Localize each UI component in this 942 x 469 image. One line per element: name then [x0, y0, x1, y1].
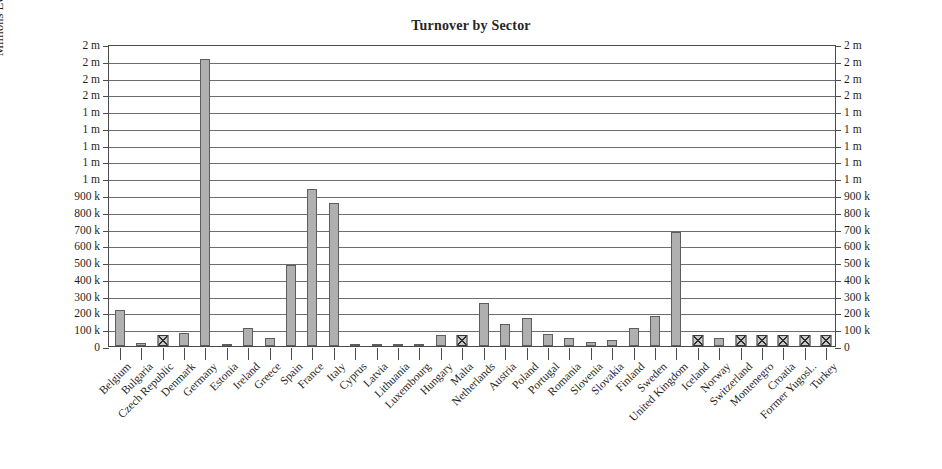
bar-slot[interactable] — [564, 46, 574, 346]
y-axis-title: Millions EUR Manufacturing — [0, 0, 7, 56]
y-tick-label: 1 m — [844, 107, 862, 118]
y-tick-label: 100 k — [844, 325, 870, 336]
x-tick — [398, 348, 399, 360]
x-tick — [548, 348, 549, 360]
x-tick — [741, 348, 742, 360]
bar-slot[interactable] — [372, 46, 382, 346]
bar[interactable] — [329, 203, 339, 346]
bar-slot[interactable] — [243, 46, 253, 346]
bar-slot[interactable] — [821, 46, 831, 346]
bar[interactable] — [564, 338, 574, 346]
y-tick-label: 0 — [844, 342, 850, 353]
y-tick-label: 900 k — [74, 191, 100, 202]
bar-slot[interactable] — [350, 46, 360, 346]
bar-slot[interactable] — [265, 46, 275, 346]
x-tick — [569, 348, 570, 360]
y-tick-label: 1 m — [82, 107, 100, 118]
x-tick — [719, 348, 720, 360]
bar-slot[interactable] — [414, 46, 424, 346]
y-tick-label: 2 m — [844, 90, 862, 101]
y-tick-label: 500 k — [74, 258, 100, 269]
bar-slot[interactable] — [736, 46, 746, 346]
x-tick — [441, 348, 442, 360]
bar-slot[interactable] — [479, 46, 489, 346]
y-tick-label: 1 m — [844, 157, 862, 168]
bar[interactable] — [671, 232, 681, 346]
bar-slot[interactable] — [115, 46, 125, 346]
bar-slot[interactable] — [222, 46, 232, 346]
y-tick-label: 2 m — [844, 57, 862, 68]
bar-slot[interactable] — [778, 46, 788, 346]
no-data-marker-icon — [799, 335, 810, 346]
bar[interactable] — [607, 340, 617, 346]
bar[interactable] — [350, 344, 360, 346]
y-tick-label: 1 m — [844, 124, 862, 135]
bar[interactable] — [650, 316, 660, 346]
x-tick — [698, 348, 699, 360]
x-tick — [527, 348, 528, 360]
y-tick-label: 1 m — [844, 141, 862, 152]
bar-slot[interactable] — [607, 46, 617, 346]
bar-slot[interactable] — [522, 46, 532, 346]
x-tick — [120, 348, 121, 360]
y-tick-label: 300 k — [844, 292, 870, 303]
bar[interactable] — [479, 303, 489, 346]
bar-slot[interactable] — [693, 46, 703, 346]
bar-slot[interactable] — [500, 46, 510, 346]
bar[interactable] — [115, 310, 125, 346]
y-tick-label: 400 k — [844, 275, 870, 286]
bar[interactable] — [372, 344, 382, 346]
y-tick-label: 200 k — [74, 308, 100, 319]
bar[interactable] — [543, 334, 553, 346]
bar[interactable] — [243, 328, 253, 346]
bar-slot[interactable] — [586, 46, 596, 346]
bar-slot[interactable] — [629, 46, 639, 346]
bar-slot[interactable] — [393, 46, 403, 346]
y-tick-label: 600 k — [844, 241, 870, 252]
bar[interactable] — [265, 338, 275, 346]
bar[interactable] — [522, 318, 532, 346]
bar[interactable] — [629, 328, 639, 346]
bar-slot[interactable] — [714, 46, 724, 346]
bar[interactable] — [500, 324, 510, 346]
bar[interactable] — [586, 342, 596, 346]
bar[interactable] — [179, 333, 189, 346]
bar-slot[interactable] — [436, 46, 446, 346]
bar[interactable] — [436, 335, 446, 346]
x-tick — [505, 348, 506, 360]
bar-slot[interactable] — [650, 46, 660, 346]
x-tick — [184, 348, 185, 360]
bar[interactable] — [307, 189, 317, 346]
no-data-marker-icon — [157, 335, 168, 346]
bar[interactable] — [714, 338, 724, 346]
bar-slot[interactable] — [200, 46, 210, 346]
y-tick-label: 800 k — [74, 208, 100, 219]
bar-slot[interactable] — [136, 46, 146, 346]
y-tick-label: 400 k — [74, 275, 100, 286]
bar-slot[interactable] — [543, 46, 553, 346]
y-tick-label: 700 k — [844, 225, 870, 236]
bar-slot[interactable] — [671, 46, 681, 346]
bar[interactable] — [393, 344, 403, 346]
no-data-marker-icon — [692, 335, 703, 346]
bar[interactable] — [414, 344, 424, 346]
chart-container: Turnover by Sector Millions EUR Manufact… — [0, 0, 942, 469]
bar-slot[interactable] — [329, 46, 339, 346]
bar-slot[interactable] — [757, 46, 767, 346]
bar-slot[interactable] — [179, 46, 189, 346]
bar-slot[interactable] — [158, 46, 168, 346]
x-tick — [270, 348, 271, 360]
bar[interactable] — [200, 59, 210, 346]
y-tick-label: 2 m — [82, 74, 100, 85]
x-tick — [762, 348, 763, 360]
y-tick-label: 2 m — [844, 40, 862, 51]
y-tick-label: 200 k — [844, 308, 870, 319]
bar[interactable] — [222, 344, 232, 346]
bar[interactable] — [286, 265, 296, 346]
y-tick-label: 2 m — [844, 74, 862, 85]
bar-slot[interactable] — [307, 46, 317, 346]
bar-slot[interactable] — [286, 46, 296, 346]
bar-slot[interactable] — [800, 46, 810, 346]
bar[interactable] — [136, 343, 146, 346]
bar-slot[interactable] — [457, 46, 467, 346]
